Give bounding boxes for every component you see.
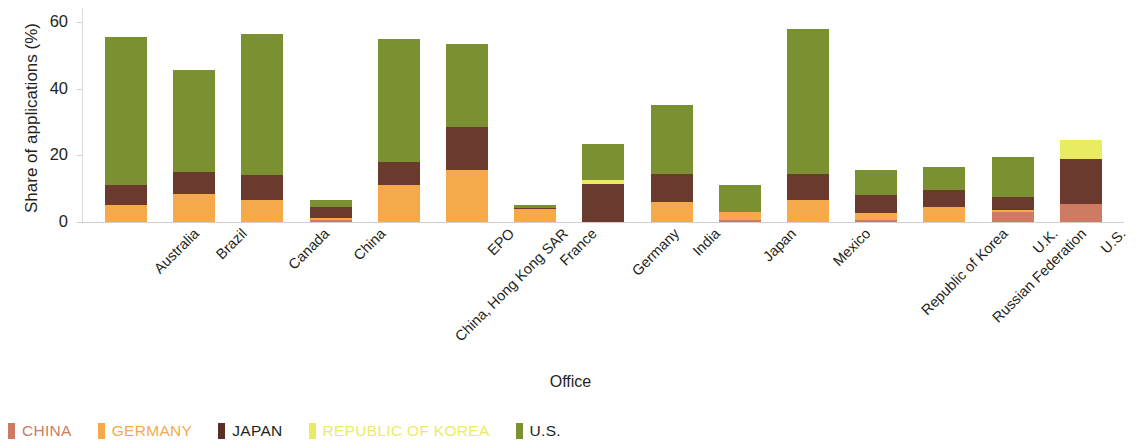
bar-russian-federation[interactable] — [923, 8, 965, 222]
bar-segment-germany — [105, 205, 147, 222]
bar-segment-japan — [1060, 159, 1102, 204]
legend-label: CHINA — [22, 422, 72, 440]
bar-segment-u-s — [992, 157, 1034, 197]
bar-segment-u-s — [582, 144, 624, 181]
bar-republic-of-korea[interactable] — [855, 8, 897, 222]
bar-segment-germany — [241, 200, 283, 222]
legend-label: U.S. — [530, 422, 561, 440]
bar-australia[interactable] — [105, 8, 147, 222]
bar-japan[interactable] — [719, 8, 761, 222]
bar-segment-japan — [787, 174, 829, 201]
x-tick-label: U.S. — [1098, 226, 1129, 257]
bar-china[interactable] — [310, 8, 352, 222]
bar-segment-germany — [923, 207, 965, 222]
legend-label: REPUBLIC OF KOREA — [323, 422, 490, 440]
bar-segment-u-s — [310, 200, 352, 207]
x-tick-label: China, Hong Kong SAR — [452, 226, 570, 344]
bar-segment-japan — [992, 197, 1034, 210]
x-tick-label: Mexico — [830, 226, 873, 269]
bar-germany[interactable] — [582, 8, 624, 222]
bar-segment-u-s — [651, 105, 693, 173]
bar-u-s[interactable] — [1060, 8, 1102, 222]
bar-segment-u-s — [173, 70, 215, 172]
bar-segment-u-s — [787, 29, 829, 174]
bar-china-hong-kong-sar[interactable] — [378, 8, 420, 222]
legend-item-china[interactable]: CHINA — [8, 422, 72, 440]
x-tick-label: Canada — [286, 226, 333, 273]
x-tick-label: Brazil — [214, 226, 250, 262]
bar-segment-germany — [855, 213, 897, 220]
bar-epo[interactable] — [446, 8, 488, 222]
bar-segment-germany — [514, 209, 556, 222]
bar-canada[interactable] — [241, 8, 283, 222]
legend-swatch-icon — [218, 423, 225, 439]
chart-legend: CHINAGERMANYJAPANREPUBLIC OF KOREAU.S. — [8, 422, 587, 440]
bar-brazil[interactable] — [173, 8, 215, 222]
legend-item-germany[interactable]: GERMANY — [98, 422, 192, 440]
legend-label: JAPAN — [232, 422, 282, 440]
legend-item-republic-of-korea[interactable]: REPUBLIC OF KOREA — [309, 422, 490, 440]
bar-segment-japan — [241, 175, 283, 200]
plot-area — [82, 8, 1122, 222]
bar-segment-germany — [651, 202, 693, 222]
bar-segment-china — [855, 220, 897, 222]
bar-segment-japan — [446, 127, 488, 170]
bar-segment-japan — [310, 207, 352, 219]
bar-segment-china — [992, 212, 1034, 222]
bar-segment-u-s — [446, 44, 488, 127]
bar-segment-germany — [378, 185, 420, 222]
bar-segment-u-s — [923, 167, 965, 190]
y-tick-label: 20 — [24, 146, 68, 163]
x-tick-label: India — [690, 226, 723, 259]
y-tick-label: 0 — [24, 213, 68, 230]
x-tick-label: EPO — [485, 226, 517, 258]
bar-segment-republic-of-korea — [1060, 140, 1102, 158]
bar-segment-japan — [173, 172, 215, 194]
x-axis-line — [82, 222, 1124, 223]
bar-segment-germany — [173, 194, 215, 222]
legend-swatch-icon — [8, 423, 15, 439]
legend-label: GERMANY — [112, 422, 192, 440]
x-tick-label: Japan — [760, 226, 799, 265]
bar-u-k[interactable] — [992, 8, 1034, 222]
bar-segment-china — [719, 220, 761, 222]
bar-segment-china — [1060, 204, 1102, 222]
bar-segment-japan — [855, 195, 897, 213]
bar-france[interactable] — [514, 8, 556, 222]
y-tick-label: 40 — [24, 80, 68, 97]
bar-segment-germany — [787, 200, 829, 222]
bar-india[interactable] — [651, 8, 693, 222]
chart-figure: Share of applications (%) 0204060 Austra… — [0, 0, 1141, 444]
legend-swatch-icon — [309, 423, 316, 439]
y-tick-mark — [77, 222, 82, 223]
x-tick-label: China — [351, 226, 389, 264]
bar-segment-japan — [378, 162, 420, 185]
bar-segment-japan — [651, 174, 693, 202]
legend-swatch-icon — [98, 423, 105, 439]
y-axis-title: Share of applications (%) — [22, 8, 42, 228]
bar-segment-u-s — [241, 34, 283, 176]
x-tick-label: Germany — [630, 226, 683, 279]
bar-segment-u-s — [719, 185, 761, 212]
y-tick-label: 60 — [24, 13, 68, 30]
x-tick-label: Australia — [152, 226, 203, 277]
bar-segment-u-s — [378, 39, 420, 162]
bar-segment-germany — [446, 170, 488, 222]
bar-segment-germany — [719, 212, 761, 220]
legend-item-u-s[interactable]: U.S. — [516, 422, 561, 440]
bar-segment-japan — [105, 185, 147, 205]
x-axis-title: Office — [0, 373, 1141, 391]
legend-swatch-icon — [516, 423, 523, 439]
bar-segment-china — [310, 220, 352, 222]
bar-segment-japan — [582, 184, 624, 222]
bar-segment-japan — [923, 190, 965, 207]
legend-item-japan[interactable]: JAPAN — [218, 422, 282, 440]
bar-segment-u-s — [105, 37, 147, 185]
bar-mexico[interactable] — [787, 8, 829, 222]
bar-segment-u-s — [855, 170, 897, 195]
